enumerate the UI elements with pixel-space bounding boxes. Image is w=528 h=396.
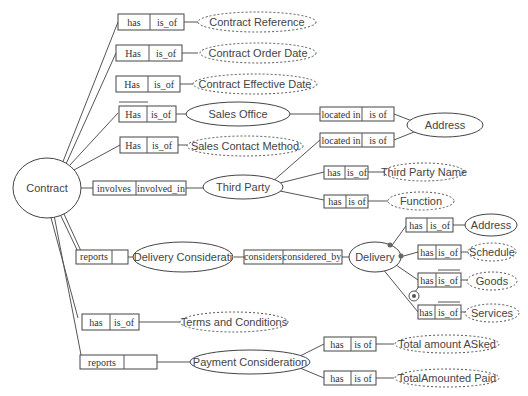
relation-box-third-party-name[interactable]: has is_of [324,166,368,179]
attribute-goods[interactable]: Goods [467,272,517,290]
relation-right-label: is_of [438,307,459,318]
entity-third-party[interactable]: Third Party [203,175,283,199]
relation-left-label: has [419,307,432,318]
attribute-contract-order-date[interactable]: Contract Order Date [200,43,316,63]
relation-left-label: has [330,339,343,350]
relation-left-label: Has [125,140,141,151]
entity-sales-office[interactable]: Sales Office [186,102,290,126]
relation-left-label: has [127,17,140,28]
entity-label: Payment Consideration [193,356,307,368]
attribute-label: Services [471,307,514,319]
entity-payment-consideration[interactable]: Payment Consideration [190,350,310,374]
relation-box-sales-contact-method[interactable]: Has is_of [120,137,178,153]
relation-right-label: is_of [156,48,177,59]
entity-label: Contract [26,182,68,194]
relation-box-contract-reference[interactable]: has is_of [118,14,184,30]
attribute-label: Schedule [469,246,515,258]
relation-right-label: is of [369,135,387,146]
attribute-third-party-name[interactable]: Third Party Name [381,163,467,181]
relation-box-third-party-function[interactable]: has is of [324,195,368,208]
entity-label: Address [425,119,466,131]
relation-box-delivery-address[interactable]: has is_of [406,218,453,232]
relation-right-label: involved_in [137,183,185,194]
relation-right-label: is_of [157,17,178,28]
relation-left-label: located in [321,135,360,146]
relation-box-third-party-address[interactable]: located in is of [320,133,394,147]
connector-dot [388,243,393,248]
relation-box-services[interactable]: has is_of [418,302,461,319]
relation-right-label: is of [369,109,387,120]
relation-box-schedule[interactable]: has is_of [418,245,461,259]
attribute-label: Contract Effective Date [199,78,312,90]
relation-box-payment-consideration[interactable]: reports [80,355,157,369]
relation-right-label: is of [354,373,372,384]
entity-label: Delivery Considerati [134,251,232,263]
relation-left-label: located in [321,109,360,120]
relation-box-terms-and-conditions[interactable]: has is_of [82,314,139,330]
relation-right-label: is_of [151,109,172,120]
relation-right-label: is_of [152,140,173,151]
relation-left-label: has [420,247,433,258]
relation-box-sales-office-address[interactable]: located in is of [320,107,394,121]
entity-label: Third Party [216,181,270,193]
relation-box-sales-office[interactable]: Has is_of [119,102,176,122]
relation-box-contract-order-date[interactable]: Has is_of [116,45,182,61]
attribute-label: TotalAmounted Paid [398,372,496,384]
relation-left-label: has [327,167,340,178]
attribute-label: Contract Reference [209,16,304,28]
er-diagram-canvas: Contract has is_of Contract Reference Ha… [0,0,528,396]
relation-right-label: is_of [347,167,368,178]
relation-left-label: has [330,373,343,384]
entity-label: Delivery [355,251,395,263]
relation-left-label: involves [97,183,131,194]
relation-box-third-party[interactable]: involves involved_in [93,181,186,195]
relation-box-total-amounted-paid[interactable]: has is of [324,371,376,385]
relation-right-label: is of [348,196,366,207]
relation-left-label: reports [80,251,108,262]
relation-left-label: Has [125,48,141,59]
entity-delivery-address[interactable]: Address [465,214,517,236]
relation-right-label: is_of [114,317,135,328]
relation-box-goods[interactable]: has is_of [418,270,461,287]
entity-label: Address [471,219,512,231]
relation-left-label: has [89,317,102,328]
attribute-label: Contract Order Date [208,47,307,59]
relation-right-label: is_of [154,79,175,90]
relation-left-label: Has [124,79,140,90]
entity-contract[interactable]: Contract [13,158,81,218]
attribute-label: Total amount ASked [398,338,496,350]
connector-dot [399,254,404,259]
relation-right-label: considered_by [283,251,341,262]
attribute-total-amount-asked[interactable]: Total amount ASked [395,335,499,353]
relation-right-label: is of [354,339,372,350]
exclusion-marker [409,291,419,301]
relation-right-label: is_of [430,220,451,231]
attribute-services[interactable]: Services [465,304,519,322]
relation-left-label: has [420,275,433,286]
attribute-function[interactable]: Function [388,192,454,210]
entity-label: Sales Office [208,108,267,120]
attribute-contract-effective-date[interactable]: Contract Effective Date [193,74,317,94]
relation-box-considers[interactable]: considers considered_by [244,250,342,264]
attribute-terms-and-conditions[interactable]: Terms and Conditions [180,312,288,332]
attribute-schedule[interactable]: Schedule [468,243,516,261]
attribute-label: Function [400,195,442,207]
relation-right-label: is_of [438,275,459,286]
relation-left-label: reports [88,357,116,368]
attribute-label: Third Party Name [381,166,467,178]
relation-left-label: has [409,220,422,231]
attribute-label: Goods [476,275,509,287]
relation-box-total-amount-asked[interactable]: has is of [324,337,376,351]
relation-right-label: is_of [438,247,459,258]
attribute-label: Sales Contact Method [191,140,299,152]
attribute-sales-contact-method[interactable]: Sales Contact Method [187,136,303,156]
relation-box-delivery-consideration[interactable]: reports [76,250,128,264]
entity-address[interactable]: Address [407,113,483,137]
relation-left-label: considers [244,251,282,262]
attribute-contract-reference[interactable]: Contract Reference [198,12,316,32]
entity-delivery-consideration[interactable]: Delivery Considerati [133,242,233,272]
entity-delivery[interactable]: Delivery [349,242,401,272]
attribute-total-amounted-paid[interactable]: TotalAmounted Paid [395,369,499,387]
relation-box-contract-effective-date[interactable]: Has is_of [116,76,180,92]
relation-left-label: has [328,196,341,207]
